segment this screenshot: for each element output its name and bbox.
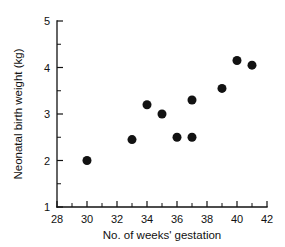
scatter-chart-figure: 2830323436384042 12345 No. of weeks' ges… xyxy=(0,0,285,247)
data-point xyxy=(173,133,182,142)
x-tick-label-38: 38 xyxy=(201,213,213,225)
y-tick-label-2: 2 xyxy=(44,155,50,167)
data-point xyxy=(233,56,242,65)
x-tick-label-40: 40 xyxy=(231,213,243,225)
y-tick-label-5: 5 xyxy=(44,15,50,27)
data-point xyxy=(188,96,197,105)
data-point xyxy=(158,110,167,119)
x-tick-label-34: 34 xyxy=(141,213,153,225)
data-point xyxy=(188,133,197,142)
data-point xyxy=(248,61,257,70)
x-tick-label-30: 30 xyxy=(81,213,93,225)
data-point xyxy=(83,156,92,165)
y-tick-label-1: 1 xyxy=(44,201,50,213)
y-tick-label-3: 3 xyxy=(44,108,50,120)
x-tick-label-36: 36 xyxy=(171,213,183,225)
chart-canvas: 2830323436384042 12345 No. of weeks' ges… xyxy=(0,0,285,247)
data-point xyxy=(218,84,227,93)
y-axis-title: Neonatal birth weight (kg) xyxy=(12,48,24,179)
data-point xyxy=(128,135,137,144)
x-axis-title: No. of weeks' gestation xyxy=(103,229,222,241)
x-tick-label-28: 28 xyxy=(51,213,63,225)
y-tick-label-4: 4 xyxy=(44,62,50,74)
x-tick-label-32: 32 xyxy=(111,213,123,225)
x-tick-label-42: 42 xyxy=(261,213,273,225)
data-point xyxy=(143,100,152,109)
chart-background xyxy=(0,0,285,247)
